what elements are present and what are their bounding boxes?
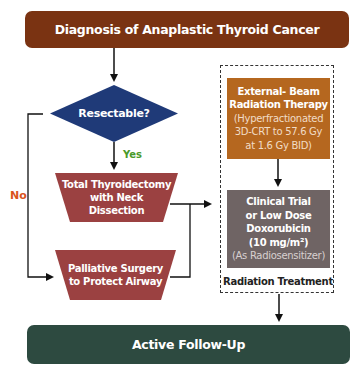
followup-banner: Active Follow-Up: [27, 325, 350, 364]
total-thyroidectomy-step: Total Thyroidectomy with Neck Dissection: [55, 173, 178, 222]
diagnosis-title: Diagnosis of Anaplastic Thyroid Cancer: [55, 22, 320, 37]
ebrt-title-1: External- Beam: [237, 85, 319, 99]
ebrt-detail-2: 3D-CRT to 57.6 Gy: [235, 125, 322, 139]
ebrt-title-2: Radiation Therapy: [229, 98, 327, 112]
ebrt-step: External- Beam Radiation Therapy (Hyperf…: [227, 78, 330, 159]
trap1-line2: with Neck: [90, 191, 143, 204]
trap1-line3: Dissection: [89, 204, 145, 217]
no-label: No: [10, 189, 27, 202]
yes-label: Yes: [123, 149, 142, 160]
chemo-title-4: (10 mg/m²): [249, 236, 309, 250]
ebrt-detail-3: at 1.6 Gy BID): [245, 139, 311, 153]
ebrt-detail-1: (Hyperfractionated: [234, 112, 324, 126]
chemo-step: Clinical Trial or Low Dose Doxorubicin (…: [227, 190, 330, 268]
diagnosis-banner: Diagnosis of Anaplastic Thyroid Cancer: [25, 11, 349, 48]
followup-title: Active Follow-Up: [132, 337, 245, 352]
trap1-line1: Total Thyroidectomy: [62, 178, 171, 191]
palliative-surgery-step: Palliative Surgery to Protect Airway: [55, 250, 176, 300]
chemo-detail-1: (As Radiosensitizer): [232, 249, 325, 263]
trap2-line2: to Protect Airway: [69, 275, 162, 288]
chemo-title-2: or Low Dose: [246, 209, 312, 223]
trap2-line1: Palliative Surgery: [68, 262, 163, 275]
resectable-decision: Resectable?: [50, 85, 178, 142]
radiation-treatment-label: Radiation Treatment: [222, 276, 334, 287]
chemo-title-1: Clinical Trial: [246, 195, 310, 209]
decision-label: Resectable?: [78, 107, 149, 120]
chemo-title-3: Doxorubicin: [246, 222, 310, 236]
